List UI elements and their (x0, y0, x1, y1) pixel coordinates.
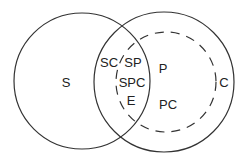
label-e: E (127, 93, 136, 108)
label-c: C (219, 75, 228, 90)
label-s: S (62, 75, 71, 90)
circle-c (94, 12, 234, 152)
label-spc: SPC (119, 75, 146, 90)
label-sc: SC (100, 55, 118, 70)
label-p: P (159, 61, 168, 76)
label-sp: SP (124, 55, 141, 70)
venn-diagram: S SC SP SPC E P PC C (0, 0, 244, 159)
label-pc: PC (159, 97, 177, 112)
venn-diagram-canvas: S SC SP SPC E P PC C (0, 0, 244, 159)
